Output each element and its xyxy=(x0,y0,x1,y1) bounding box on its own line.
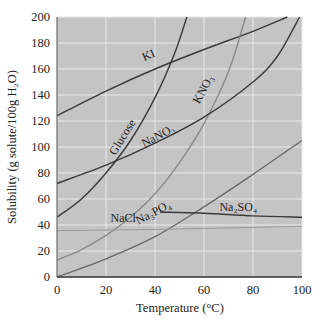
y-tick-label: 160 xyxy=(31,62,50,76)
y-tick-label: 200 xyxy=(31,10,50,24)
y-axis-label: Solubility (g solute/100g H₂O) xyxy=(5,70,19,224)
solubility-chart: KIGlucoseKNO₃NaNO₃Na₃PO₄Na₂SO₄NaCl 02040… xyxy=(0,0,323,323)
y-tick-label: 180 xyxy=(31,36,50,50)
y-tick-label: 140 xyxy=(31,88,50,102)
y-axis-ticks: 020406080100120140160180200 xyxy=(31,10,50,284)
x-tick-label: 20 xyxy=(100,283,113,297)
y-tick-label: 60 xyxy=(38,192,51,206)
y-tick-label: 20 xyxy=(38,244,51,258)
y-tick-label: 40 xyxy=(38,218,51,232)
y-tick-label: 0 xyxy=(44,270,50,284)
curve-label-nacl: NaCl xyxy=(110,211,136,225)
x-axis-ticks: 020406080100 xyxy=(54,283,312,297)
y-tick-label: 80 xyxy=(38,166,51,180)
curve-label-na2so4: Na₂SO₄ xyxy=(219,200,257,214)
x-tick-label: 60 xyxy=(198,283,211,297)
x-tick-label: 40 xyxy=(149,283,162,297)
x-tick-label: 0 xyxy=(54,283,60,297)
y-tick-label: 100 xyxy=(31,140,50,154)
x-tick-label: 80 xyxy=(247,283,260,297)
y-tick-label: 120 xyxy=(31,114,50,128)
x-tick-label: 100 xyxy=(293,283,312,297)
x-axis-label: Temperature (°C) xyxy=(136,301,224,315)
